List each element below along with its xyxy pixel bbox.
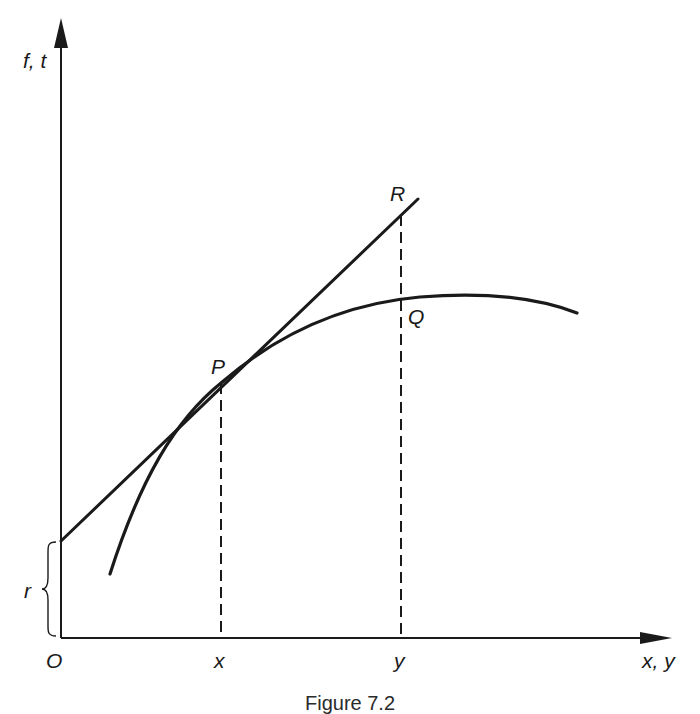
brace-icon	[42, 542, 56, 636]
origin-label: O	[46, 650, 62, 671]
x-axis-label: x, y	[642, 650, 675, 671]
tangent-line-t	[61, 199, 418, 541]
figure-caption: Figure 7.2	[0, 693, 700, 713]
curve-f	[110, 295, 577, 574]
y-axis-label: f, t	[23, 50, 46, 71]
vertical-axis-arrowhead-icon	[54, 18, 68, 48]
intercept-r-label: r	[24, 580, 31, 601]
horizontal-axis	[61, 632, 672, 644]
point-q-label: Q	[408, 306, 424, 327]
point-p-label: P	[211, 356, 225, 377]
x-tick-label: x	[214, 650, 225, 671]
y-tick-label: y	[394, 650, 405, 671]
vertical-axis	[54, 18, 68, 638]
point-r-label: R	[390, 183, 405, 204]
horizontal-axis-arrowhead-icon	[640, 632, 672, 644]
